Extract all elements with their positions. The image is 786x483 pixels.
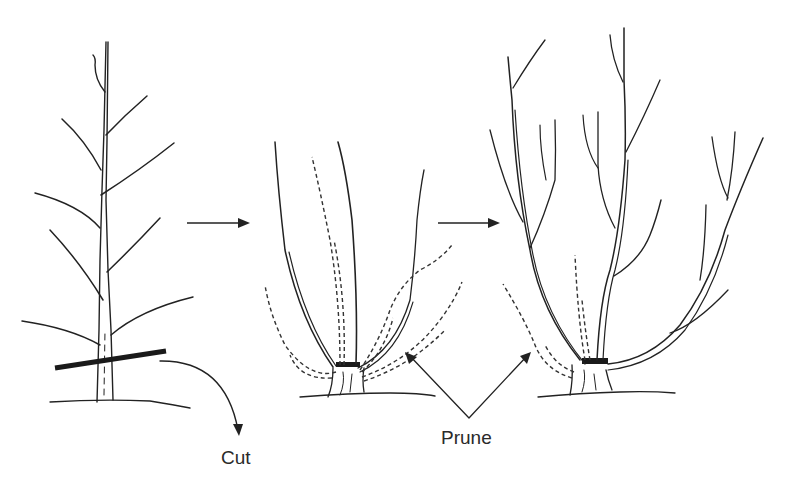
prune-label: Prune: [441, 427, 492, 449]
prune-arrows: [405, 352, 531, 418]
cut-label: Cut: [221, 447, 251, 469]
stage-young-tree: [22, 42, 193, 408]
stage-regrowth: [265, 142, 462, 397]
cut-line: [55, 351, 166, 368]
stage-arrow-1: [187, 218, 250, 228]
stage-arrow-2: [438, 218, 500, 228]
stage-established-shrub: [490, 28, 763, 397]
pruning-diagram: [0, 0, 786, 483]
cut-arrow: [160, 361, 243, 436]
